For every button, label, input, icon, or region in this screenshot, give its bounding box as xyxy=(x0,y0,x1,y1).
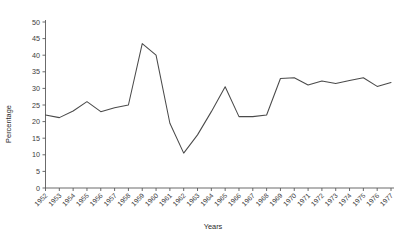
y-axis-tick-label: 5 xyxy=(36,167,40,176)
chart-canvas: 05101520253035404550 1952195319541955195… xyxy=(0,0,411,237)
y-axis-tick-label: 0 xyxy=(36,184,40,193)
y-axis-tick-label: 15 xyxy=(32,134,40,143)
y-axis-tick-label: 50 xyxy=(32,18,40,27)
y-axis-tick-label: 35 xyxy=(32,67,40,76)
x-axis-title: Years xyxy=(204,222,223,231)
y-axis-tick-label: 25 xyxy=(32,101,40,110)
y-axis-tick-label: 40 xyxy=(32,51,40,60)
y-axis-tick-label: 45 xyxy=(32,34,40,43)
y-axis-tick-label: 30 xyxy=(32,84,40,93)
line-chart: 05101520253035404550 1952195319541955195… xyxy=(0,0,411,237)
y-axis-title: Percentage xyxy=(4,105,13,143)
y-axis-tick-label: 10 xyxy=(32,150,40,159)
y-axis-tick-label: 20 xyxy=(32,117,40,126)
